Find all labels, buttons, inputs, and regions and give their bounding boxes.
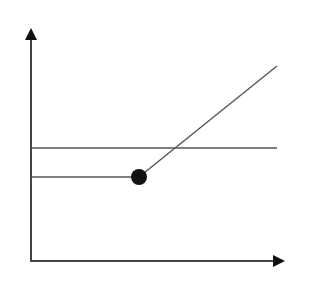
diagram [0, 0, 311, 287]
kink-point [131, 169, 147, 185]
background [0, 0, 311, 287]
